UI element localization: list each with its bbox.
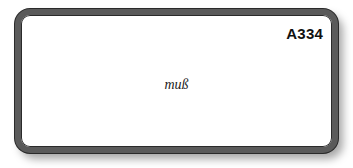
card-code: A334 [286, 25, 323, 42]
card-frame: A334 muß [15, 9, 338, 153]
card-word: muß [21, 77, 332, 93]
